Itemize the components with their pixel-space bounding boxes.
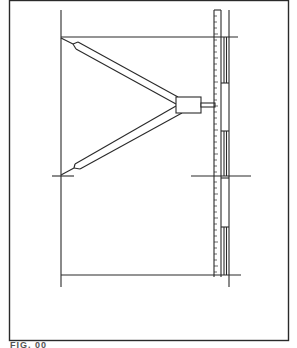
lower-arm <box>61 106 182 175</box>
figure-frame <box>10 1 289 341</box>
upper-arm <box>61 38 178 104</box>
slider-block <box>176 97 201 113</box>
linkage-diagram <box>0 0 297 348</box>
graduated-scale <box>214 10 229 287</box>
figure-caption: FIG. 00 <box>10 342 47 348</box>
slider-stem <box>201 103 215 107</box>
